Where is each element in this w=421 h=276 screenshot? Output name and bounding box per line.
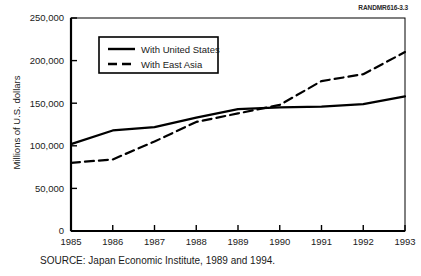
y-tick-label: 50,000 — [35, 183, 64, 194]
figure-id-label: RANDMR616-3.3 — [358, 4, 408, 11]
x-tick-label: 1988 — [186, 236, 207, 247]
source-note: SOURCE: Japan Economic Institute, 1989 a… — [40, 255, 275, 266]
y-tick-label: 0 — [59, 225, 64, 236]
y-tick-label: 200,000 — [30, 55, 64, 66]
y-tick-label: 250,000 — [30, 12, 64, 23]
line-chart-plot: 050,000100,000150,000200,000250,00019851… — [0, 0, 421, 250]
x-tick-label: 1990 — [269, 236, 290, 247]
x-tick-label: 1992 — [353, 236, 374, 247]
x-tick-label: 1987 — [144, 236, 165, 247]
y-tick-label: 100,000 — [30, 140, 64, 151]
legend-label-1: With United States — [141, 44, 220, 55]
x-tick-label: 1993 — [394, 236, 415, 247]
x-tick-label: 1989 — [227, 236, 248, 247]
y-axis-title: Millions of U.S. dollars — [11, 28, 22, 218]
x-tick-label: 1985 — [60, 236, 81, 247]
x-tick-label: 1986 — [102, 236, 123, 247]
x-tick-label: 1991 — [311, 236, 332, 247]
series-line-with-united-states — [71, 96, 405, 144]
y-tick-label: 150,000 — [30, 98, 64, 109]
figure-container: RANDMR616-3.3 Millions of U.S. dollars 0… — [0, 0, 421, 276]
legend-label-2: With East Asia — [141, 59, 203, 70]
